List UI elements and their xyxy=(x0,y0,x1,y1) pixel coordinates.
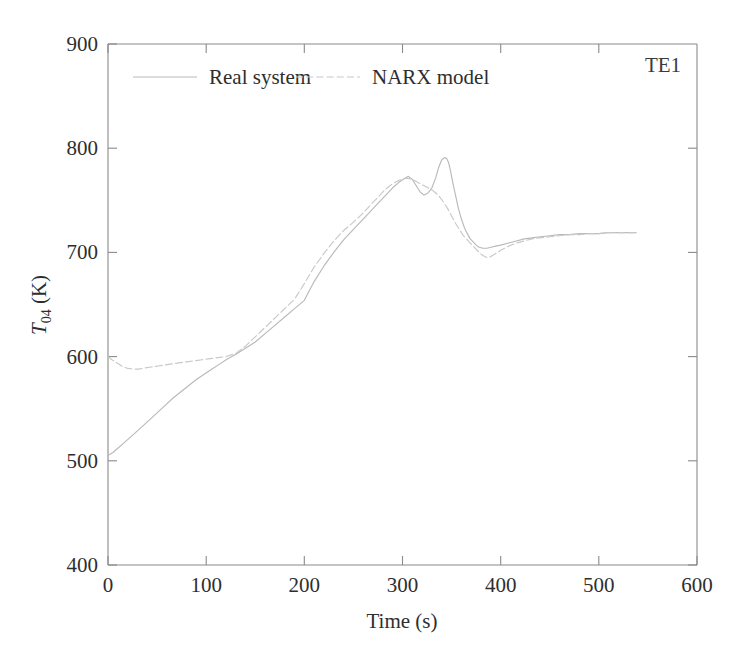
x-axis-title: Time (s) xyxy=(367,609,438,633)
y-tick-label-700: 700 xyxy=(67,240,99,264)
x-tick-label-600: 600 xyxy=(681,573,713,597)
chart-legend: Real system NARX model xyxy=(133,65,489,89)
series-line-real-system xyxy=(108,158,636,456)
x-tick-label-200: 200 xyxy=(289,573,321,597)
y-axis-title: T04 (K) xyxy=(27,275,54,335)
chart-canvas: 400 500 600 700 800 900 0 100 200 300 40… xyxy=(0,0,746,647)
svg-text:T04 (K): T04 (K) xyxy=(27,275,54,335)
series-line-narx-model xyxy=(108,178,636,369)
legend-label-narx-model: NARX model xyxy=(372,65,489,89)
annotation-te1: TE1 xyxy=(645,53,681,77)
chart-figure: 400 500 600 700 800 900 0 100 200 300 40… xyxy=(0,0,746,647)
x-tick-marks xyxy=(108,44,697,565)
y-axis-title-unit: (K) xyxy=(27,275,51,304)
y-tick-label-800: 800 xyxy=(67,136,99,160)
x-tick-label-100: 100 xyxy=(190,573,222,597)
x-tick-label-400: 400 xyxy=(485,573,517,597)
y-tick-label-600: 600 xyxy=(67,345,99,369)
legend-label-real-system: Real system xyxy=(209,65,311,89)
x-tick-label-300: 300 xyxy=(387,573,419,597)
x-tick-labels: 0 100 200 300 400 500 600 xyxy=(103,573,713,597)
data-series-group xyxy=(108,158,636,456)
y-tick-label-400: 400 xyxy=(67,553,99,577)
y-tick-labels: 400 500 600 700 800 900 xyxy=(67,32,99,577)
y-tick-marks xyxy=(108,44,697,565)
x-tick-label-500: 500 xyxy=(583,573,615,597)
y-tick-label-900: 900 xyxy=(67,32,99,56)
plot-frame xyxy=(108,44,697,565)
x-tick-label-0: 0 xyxy=(103,573,114,597)
y-tick-label-500: 500 xyxy=(67,449,99,473)
y-axis-title-sub: 04 xyxy=(39,309,54,323)
